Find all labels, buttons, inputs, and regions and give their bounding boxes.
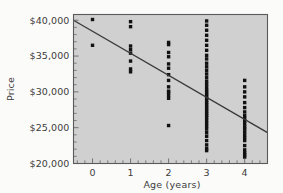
data-point [205, 127, 208, 130]
data-point [205, 62, 208, 65]
data-point [205, 57, 208, 60]
y-tick-label: $30,000 [30, 86, 70, 97]
x-tick-label: 1 [127, 167, 133, 178]
data-point [205, 34, 208, 37]
data-point [243, 95, 246, 98]
data-point [205, 65, 208, 68]
data-point [167, 51, 170, 54]
data-point [167, 43, 170, 46]
data-point [91, 44, 94, 47]
x-tick-label: 4 [242, 167, 248, 178]
data-point [129, 44, 132, 47]
y-axis-tick-labels: $20,000$25,000$30,000$35,000$40,000 [30, 15, 70, 169]
data-point [205, 131, 208, 134]
data-point [205, 149, 208, 152]
x-tick-label: 3 [204, 167, 210, 178]
data-point [205, 29, 208, 32]
y-tick-label: $20,000 [30, 158, 70, 169]
data-point [205, 76, 208, 79]
data-point [243, 79, 246, 82]
data-point [205, 44, 208, 47]
data-point [205, 139, 208, 142]
data-point [243, 155, 246, 158]
data-point [205, 19, 208, 22]
data-point [129, 59, 132, 62]
data-point [243, 101, 246, 104]
data-point [243, 144, 246, 147]
plot-svg: $20,000$25,000$30,000$35,000$40,000 0123… [0, 0, 283, 193]
scatter-plot-figure: $20,000$25,000$30,000$35,000$40,000 0123… [0, 0, 283, 193]
data-point [129, 48, 132, 51]
data-point [243, 106, 246, 109]
data-point [243, 139, 246, 142]
data-point [205, 49, 208, 52]
data-point [167, 55, 170, 58]
x-tick-label: 2 [166, 167, 172, 178]
y-axis-title: Price [5, 77, 16, 101]
y-tick-label: $35,000 [30, 50, 70, 61]
data-point [205, 72, 208, 75]
x-tick-label: 0 [89, 167, 95, 178]
data-point [205, 135, 208, 138]
data-point [205, 69, 208, 72]
y-tick-label: $25,000 [30, 122, 70, 133]
data-point [129, 70, 132, 73]
data-point [129, 25, 132, 28]
x-axis-title: Age (years) [143, 179, 200, 190]
data-point [167, 62, 170, 65]
data-point [167, 79, 170, 82]
data-point [91, 18, 94, 21]
data-point [205, 39, 208, 42]
data-point [167, 124, 170, 127]
data-point [205, 143, 208, 146]
data-point [243, 85, 246, 88]
data-point [243, 110, 246, 113]
y-tick-label: $40,000 [30, 15, 70, 26]
data-point [243, 90, 246, 93]
data-point [167, 97, 170, 100]
x-axis-tick-labels: 01234 [89, 167, 247, 178]
data-point [167, 67, 170, 70]
data-point [205, 54, 208, 57]
data-point [205, 24, 208, 27]
data-point [129, 20, 132, 23]
data-point [167, 85, 170, 88]
